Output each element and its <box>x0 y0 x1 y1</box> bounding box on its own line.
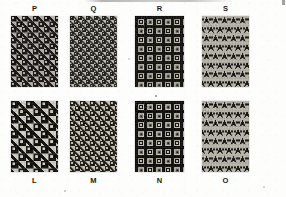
figure-caption: Fig. 147. <box>285 96 286 126</box>
fabric-swatch-q <box>70 16 117 87</box>
scan-edge-artifact-right <box>282 0 285 5</box>
swatch-cell-l: L <box>11 101 58 172</box>
swatch-label-q: Q <box>84 4 104 13</box>
paper-speck <box>64 190 66 192</box>
paper-speck <box>128 58 130 60</box>
fabric-swatch-s <box>202 16 249 87</box>
swatch-cell-p: P <box>11 16 58 87</box>
paper-speck <box>155 95 157 97</box>
fabric-swatch-n <box>135 101 184 172</box>
fabric-swatch-o <box>202 101 249 172</box>
swatch-label-n: N <box>150 176 170 185</box>
scan-edge-artifact-top <box>84 0 234 2</box>
swatch-cell-r: R <box>135 16 184 87</box>
swatch-cell-s: S <box>202 16 249 87</box>
swatch-label-o: O <box>216 176 236 185</box>
swatch-label-m: M <box>84 176 104 185</box>
swatch-label-p: P <box>25 4 45 13</box>
paper-speck <box>263 186 265 188</box>
swatch-cell-q: Q <box>70 16 117 87</box>
swatch-cell-o: O <box>202 101 249 172</box>
swatch-cell-m: M <box>70 101 117 172</box>
figure-plate: PQRSLMNO Fig. 147. <box>0 0 286 197</box>
swatch-label-l: L <box>25 176 45 185</box>
swatch-label-r: R <box>150 4 170 13</box>
fabric-swatch-m <box>70 101 117 172</box>
swatch-cell-n: N <box>135 101 184 172</box>
fabric-swatch-l <box>11 101 58 172</box>
fabric-swatch-r <box>135 16 184 87</box>
swatch-label-s: S <box>216 4 236 13</box>
fabric-swatch-p <box>11 16 58 87</box>
